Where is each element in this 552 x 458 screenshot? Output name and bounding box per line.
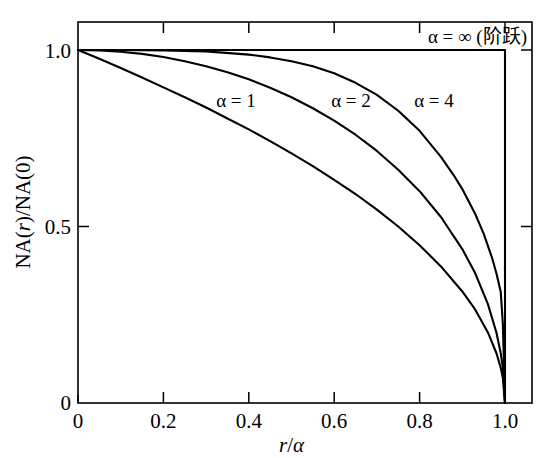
x-axis-ticks: [78, 392, 505, 403]
x-tick-label-3: 0.6: [321, 409, 347, 433]
y-axis-title: NA(r)/NA(0): [11, 155, 35, 268]
curve-label-alpha-4: α = 4: [414, 90, 454, 111]
y-axis-right-ticks: [521, 50, 532, 227]
curve-label-alpha-infinity: α = ∞ (阶跃): [428, 26, 527, 48]
x-axis-title: r/α: [279, 433, 305, 457]
y-tick-label-0: 0: [61, 391, 72, 415]
x-tick-label-0: 0: [73, 409, 84, 433]
y-axis-ticks: [78, 50, 89, 227]
x-tick-label-4: 0.8: [406, 409, 432, 433]
x-axis-title-denominator: α: [293, 433, 305, 457]
y-axis-title-prefix: NA(: [11, 231, 35, 268]
y-tick-labels: 1.0 0.5 0: [45, 39, 71, 415]
y-tick-label-0-5: 0.5: [45, 215, 71, 239]
x-tick-labels: 0 0.2 0.4 0.6 0.8 1.0: [73, 409, 518, 433]
y-tick-label-1-0: 1.0: [45, 39, 71, 63]
x-tick-label-5: 1.0: [492, 409, 518, 433]
svg-text:r/α: r/α: [279, 433, 305, 457]
svg-text:NA(r)/NA(0): NA(r)/NA(0): [11, 155, 35, 268]
figure-container: 0 0.2 0.4 0.6 0.8 1.0 1.0 0.5 0 r/α NA(r…: [0, 0, 552, 458]
y-axis-title-suffix: )/NA(0): [11, 155, 35, 223]
curve-label-alpha-1: α = 1: [216, 90, 256, 111]
x-tick-label-2: 0.4: [236, 409, 263, 433]
chart-svg: 0 0.2 0.4 0.6 0.8 1.0 1.0 0.5 0 r/α NA(r…: [0, 0, 552, 458]
x-tick-label-1: 0.2: [150, 409, 176, 433]
curve-label-alpha-2: α = 2: [331, 90, 371, 111]
